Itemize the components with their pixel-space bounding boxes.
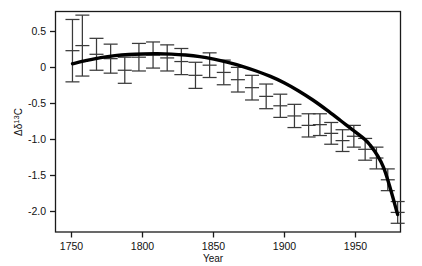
error-bar	[245, 75, 259, 100]
smoothed-fit-line	[72, 54, 397, 215]
error-bar	[75, 15, 89, 76]
y-tick-label: -2.0	[28, 205, 46, 217]
error-bar	[259, 84, 273, 109]
x-tick-label: 1800	[131, 240, 155, 252]
y-axis-tick-labels: 0.5 0 -0.5 -1.0 -1.5 -2.0	[28, 25, 46, 217]
error-bar	[188, 62, 202, 88]
x-tick-label: 1950	[344, 240, 368, 252]
error-bar	[231, 67, 245, 92]
error-bar-series	[65, 15, 404, 223]
x-axis-tick-labels: 1750 1800 1850 1900 1950	[60, 240, 368, 252]
y-tick-label: -0.5	[28, 97, 46, 109]
error-bar	[160, 45, 174, 71]
x-axis-title: Year	[203, 253, 224, 264]
y-axis-title-superscript: 13	[12, 115, 21, 123]
y-axis-ticks	[50, 32, 56, 212]
error-bar	[287, 104, 301, 127]
svg-text:Δδ13C: Δδ13C	[12, 108, 25, 136]
error-bar	[118, 57, 132, 83]
error-bar	[313, 114, 327, 136]
y-tick-label: -1.5	[28, 169, 46, 181]
error-bar	[174, 48, 188, 74]
error-bar	[273, 94, 287, 117]
x-axis-ticks	[72, 232, 356, 238]
y-axis-title-element: C	[13, 108, 24, 115]
error-bar	[302, 114, 316, 137]
error-bar	[104, 44, 118, 73]
figure-container: 0.5 0 -0.5 -1.0 -1.5 -2.0 1750 1800 1850…	[0, 0, 422, 266]
y-tick-label: 0	[40, 61, 46, 73]
error-bar	[65, 19, 79, 81]
y-axis-title: Δδ13C	[12, 108, 25, 136]
error-bar	[132, 43, 146, 71]
x-tick-label: 1900	[273, 240, 297, 252]
chart-canvas: 0.5 0 -0.5 -1.0 -1.5 -2.0 1750 1800 1850…	[0, 0, 422, 266]
error-bar	[90, 38, 104, 70]
x-tick-label: 1850	[202, 240, 226, 252]
y-tick-label: -1.0	[28, 133, 46, 145]
x-tick-label: 1750	[60, 240, 84, 252]
y-tick-label: 0.5	[31, 25, 46, 37]
